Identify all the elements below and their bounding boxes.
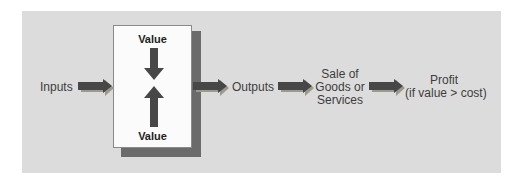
inputs-label: Inputs [40,81,73,94]
right-arrow-icon [369,79,407,97]
value-label-top: Value [113,33,192,45]
profit-line-2: (if value > cost) [405,87,483,100]
down-arrow-icon [143,47,165,81]
profit-label: Profit (if value > cost) [405,74,483,100]
outputs-label: Outputs [232,81,274,94]
right-arrow-icon [193,79,231,97]
right-arrow-icon [278,79,316,97]
value-label-bottom: Value [113,130,192,142]
sale-of-goods-label: Sale of Goods or Services [314,68,366,107]
sale-line-3: Services [314,94,366,107]
right-arrow-icon [78,79,116,97]
up-arrow-icon [143,86,165,128]
